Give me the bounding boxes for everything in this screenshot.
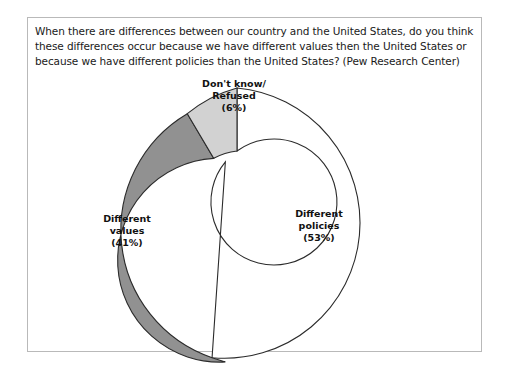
figure-panel: When there are differences between our c…	[27, 17, 482, 352]
slice-label-line2: Refused	[212, 90, 256, 101]
slice-label-line1: Different	[103, 213, 151, 224]
slice-label-different-values: Different values (41%)	[84, 213, 170, 249]
slice-label-line2: policies	[299, 220, 340, 231]
slice-label-line2: values	[110, 225, 145, 236]
slice-label-line3: (53%)	[303, 232, 334, 243]
slice-label-different-policies: Different policies (53%)	[276, 208, 362, 244]
slice-label-line3: (41%)	[111, 237, 142, 248]
slice-label-line3: (6%)	[222, 102, 247, 113]
slice-label-line1: Don't know/	[202, 78, 266, 89]
donut-chart: Don't know/ Refused (6%) Different value…	[28, 66, 481, 351]
slice-label-dont-know-refused: Don't know/ Refused (6%)	[188, 78, 280, 114]
question-text: When there are differences between our c…	[35, 24, 475, 69]
slice-label-line1: Different	[295, 208, 343, 219]
